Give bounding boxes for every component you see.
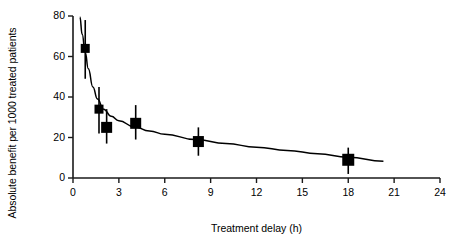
chart-plot-area [0, 0, 464, 246]
y-tick-label: 20 [25, 131, 65, 143]
x-tick-label: 6 [145, 186, 185, 198]
y-tick-label: 40 [25, 90, 65, 102]
data-marker [94, 105, 103, 114]
x-tick-label: 21 [374, 186, 414, 198]
x-tick-label: 0 [53, 186, 93, 198]
x-tick-label: 12 [237, 186, 277, 198]
x-tick-label: 18 [328, 186, 368, 198]
data-markers [81, 44, 355, 166]
x-tick-label: 3 [99, 186, 139, 198]
data-marker [193, 136, 204, 147]
x-axis-label: Treatment delay (h) [73, 222, 440, 234]
y-tick-label: 80 [25, 9, 65, 21]
x-tick-label: 24 [420, 186, 460, 198]
x-tick-label: 9 [191, 186, 231, 198]
y-tick-label: 0 [25, 171, 65, 183]
x-tick-label: 15 [282, 186, 322, 198]
data-marker [81, 44, 90, 53]
axis-lines [73, 16, 440, 178]
y-tick-label: 60 [25, 50, 65, 62]
fit-curve [80, 17, 384, 161]
data-marker [342, 154, 354, 166]
data-marker [130, 118, 141, 129]
chart-figure: 03691215182124 020406080 Treatment delay… [0, 0, 464, 246]
data-marker [101, 122, 112, 133]
y-axis-label: Absolute benefit per 1000 treated patien… [6, 0, 19, 246]
error-bars [85, 20, 348, 174]
